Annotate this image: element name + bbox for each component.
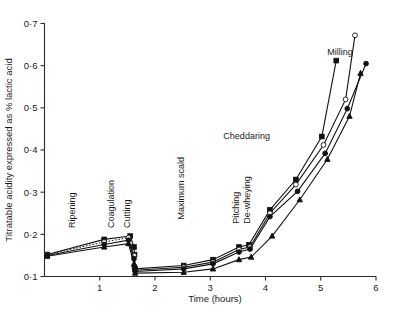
data-point-filled-square: [294, 177, 299, 182]
data-point-filled-square: [320, 134, 325, 139]
series-vat-2: [45, 33, 358, 273]
x-axis-title: Time (hours): [188, 293, 242, 304]
x-tick-label: 2: [152, 282, 157, 293]
y-tick-label: 0·5: [24, 102, 38, 113]
y-tick-label: 0·4: [24, 144, 38, 155]
x-tick-group: 123456: [97, 277, 379, 293]
data-point-filled-circle: [268, 214, 273, 219]
annotation-label: Pitching: [231, 192, 241, 224]
annotation-label: Cheddaring: [223, 131, 270, 141]
y-axis-title: Titratable acidity expressed as % lactic…: [3, 58, 14, 241]
annotation-label: Cutting: [122, 199, 132, 228]
data-point-filled-triangle: [347, 113, 352, 118]
data-point-filled-square: [334, 58, 339, 63]
y-tick-label: 0·3: [24, 187, 38, 198]
series-path: [47, 61, 336, 269]
y-tick-group: 0·10·20·30·40·50·60·7: [24, 18, 45, 282]
annotation-label: Maximum scald: [176, 157, 186, 220]
series-group: [45, 33, 369, 275]
data-point-open-circle: [353, 33, 358, 38]
y-tick-label: 0·6: [24, 60, 38, 71]
data-point-filled-circle: [364, 61, 369, 66]
y-tick-label: 0·1: [24, 271, 38, 282]
x-axis: 123456: [45, 277, 379, 293]
data-point-open-circle: [293, 182, 298, 187]
data-point-filled-triangle: [325, 156, 330, 161]
annotation-group: RipeningCoagulationCuttingMaximum scaldP…: [67, 47, 353, 228]
data-point-filled-square: [132, 245, 137, 250]
data-point-filled-triangle: [131, 261, 136, 266]
x-tick-label: 3: [208, 282, 213, 293]
data-point-filled-circle: [295, 189, 300, 194]
series-path: [135, 35, 355, 270]
chart-container: 0·10·20·30·40·50·60·7 123456 RipeningCoa…: [0, 0, 412, 311]
x-tick-label: 4: [263, 282, 268, 293]
x-tick-label: 5: [318, 282, 323, 293]
data-point-filled-circle: [345, 106, 350, 111]
data-point-open-circle: [343, 97, 348, 102]
data-point-open-circle: [321, 143, 326, 148]
series-vat-1: [45, 58, 339, 271]
series-path: [47, 64, 366, 272]
data-point-filled-circle: [237, 250, 242, 255]
annotation-label: Ripening: [67, 192, 77, 228]
series-path: [47, 73, 360, 273]
annotation-label: Coagulation: [106, 180, 116, 228]
data-point-filled-circle: [248, 247, 253, 252]
x-tick-label: 6: [373, 282, 378, 293]
data-point-filled-circle: [323, 151, 328, 156]
y-axis: 0·10·20·30·40·50·60·7: [24, 18, 45, 282]
x-tick-label: 1: [97, 282, 102, 293]
annotation-label: Milling: [327, 47, 353, 57]
y-tick-label: 0·2: [24, 229, 38, 240]
y-tick-label: 0·7: [24, 18, 38, 29]
acidity-time-line-chart: 0·10·20·30·40·50·60·7 123456 RipeningCoa…: [0, 0, 412, 311]
annotation-label: De-wheying: [242, 176, 252, 224]
